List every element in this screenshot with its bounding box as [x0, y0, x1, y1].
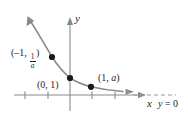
point-label-left-suffix: ) [36, 47, 39, 58]
point-label-left: (–1, 1a) [11, 48, 39, 70]
point-marker-origin [67, 75, 73, 81]
y-axis-label: y [75, 13, 80, 24]
point-label-right-suffix: ) [116, 72, 119, 83]
asymptote-label-equation: = 0 [162, 98, 178, 109]
curve-arrowhead-right [126, 89, 135, 95]
fraction-denominator: a [30, 61, 36, 70]
point-label-origin: (0, 1) [37, 80, 59, 90]
point-marker-right [88, 84, 94, 90]
point-marker-left [49, 54, 55, 60]
fraction-numerator: 1 [30, 53, 36, 61]
exponential-decay-figure: y x y = 0 (–1, 1a) (0, 1) (1, a) [0, 0, 188, 127]
point-label-right-prefix: (1, [98, 72, 111, 83]
point-label-left-prefix: (–1, [11, 47, 29, 58]
fraction-one-over-a: 1a [30, 53, 36, 70]
asymptote-label: y = 0 [158, 99, 178, 109]
y-axis-arrowhead [67, 17, 73, 25]
x-axis-label: x [147, 98, 152, 109]
point-label-right: (1, a) [98, 73, 120, 83]
y-axis [67, 17, 73, 111]
